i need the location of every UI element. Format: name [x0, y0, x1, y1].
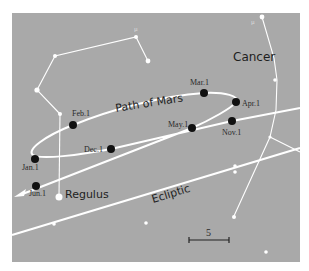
point-feb: [69, 121, 77, 129]
point-may: [188, 124, 196, 132]
regulus-label: Regulus: [65, 188, 109, 201]
label-jun: Jun.1: [29, 189, 46, 198]
label-may: May.1: [168, 120, 188, 129]
point-dec: [107, 145, 115, 153]
label-mar: Mar.1: [190, 78, 209, 87]
point-mar: [200, 89, 208, 97]
label-dec: Dec.1: [84, 145, 103, 154]
point-nov: [228, 117, 236, 125]
scale-label: 5: [206, 227, 211, 238]
label-jan: Jan.1: [22, 163, 39, 172]
label-nov: Nov.1: [222, 128, 241, 137]
label-feb: Feb.1: [72, 109, 90, 118]
mu-leo-label: μ: [134, 25, 138, 33]
cancer-label: Cancer: [233, 50, 275, 64]
regulus-star: [56, 194, 63, 201]
mars-retrograde-diagram: Feb.1 Mar.1 Apr.1 May.1 Nov.1 Dec.1 Jan.…: [0, 0, 309, 271]
mu-cnc-label: μ: [251, 18, 255, 26]
point-apr: [232, 98, 240, 106]
label-apr: Apr.1: [242, 99, 260, 108]
point-jan: [31, 155, 39, 163]
